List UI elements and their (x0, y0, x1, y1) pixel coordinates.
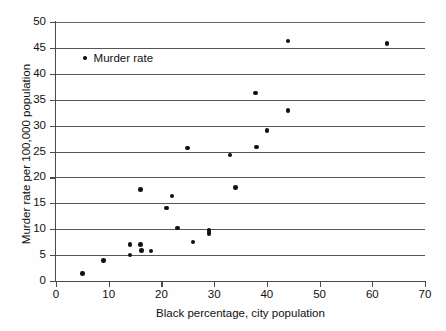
y-axis-tick (50, 203, 56, 204)
x-axis-tick (372, 282, 373, 287)
data-point (175, 226, 180, 231)
y-axis-tick-label: 0 (12, 275, 46, 286)
x-axis-tick (320, 282, 321, 287)
x-axis-tick-label: 0 (41, 288, 71, 300)
x-axis-tick-label: 50 (305, 288, 335, 300)
x-axis-tick (267, 282, 268, 287)
legend-marker-icon (83, 56, 87, 60)
data-point (138, 187, 143, 192)
x-axis-tick-label: 40 (252, 288, 282, 300)
data-point (253, 91, 258, 96)
x-axis-tick-label: 70 (410, 288, 440, 300)
y-axis-tick (50, 74, 56, 75)
y-axis-tick (50, 152, 56, 153)
x-axis-tick (109, 282, 110, 287)
gridline (56, 229, 425, 230)
x-axis-tick-label: 10 (94, 288, 124, 300)
gridline (56, 22, 425, 23)
gridline (56, 100, 425, 101)
data-point (254, 145, 259, 150)
x-axis-tick (161, 282, 162, 287)
gridline (56, 152, 425, 153)
x-axis-title: Black percentage, city population (56, 307, 425, 319)
gridline (56, 177, 425, 178)
data-point (80, 271, 85, 276)
data-point (101, 258, 106, 263)
scatter-chart: 05101520253035404550 010203040506070 Mur… (0, 0, 446, 331)
gridline (56, 48, 425, 49)
y-axis-title: Murder rate per 100,000 population (20, 44, 32, 264)
x-axis-tick-label: 20 (146, 288, 176, 300)
legend-series-label: Murder rate (94, 52, 153, 64)
data-point (233, 185, 238, 190)
gridline (56, 126, 425, 127)
gridline (56, 74, 425, 75)
x-axis-line (55, 281, 426, 282)
x-axis-tick (425, 282, 426, 287)
data-point (128, 242, 133, 247)
data-point (139, 248, 144, 253)
data-point (138, 242, 143, 247)
data-point (385, 41, 390, 46)
x-axis-tick (214, 282, 215, 287)
y-axis-tick (50, 48, 56, 49)
gridline (56, 203, 425, 204)
data-point (207, 231, 212, 236)
y-axis-tick (50, 229, 56, 230)
data-point (265, 128, 270, 133)
y-axis-tick (50, 126, 56, 127)
x-axis-tick-label: 60 (357, 288, 387, 300)
y-axis-tick (50, 100, 56, 101)
y-axis-tick-label: 50 (12, 16, 46, 27)
legend: Murder rate (83, 52, 153, 64)
x-axis-tick (56, 282, 57, 287)
y-axis-tick (50, 255, 56, 256)
y-axis-tick (50, 22, 56, 23)
x-axis-tick-label: 30 (199, 288, 229, 300)
gridline (56, 255, 425, 256)
y-axis-tick (50, 177, 56, 178)
data-point (286, 108, 291, 113)
